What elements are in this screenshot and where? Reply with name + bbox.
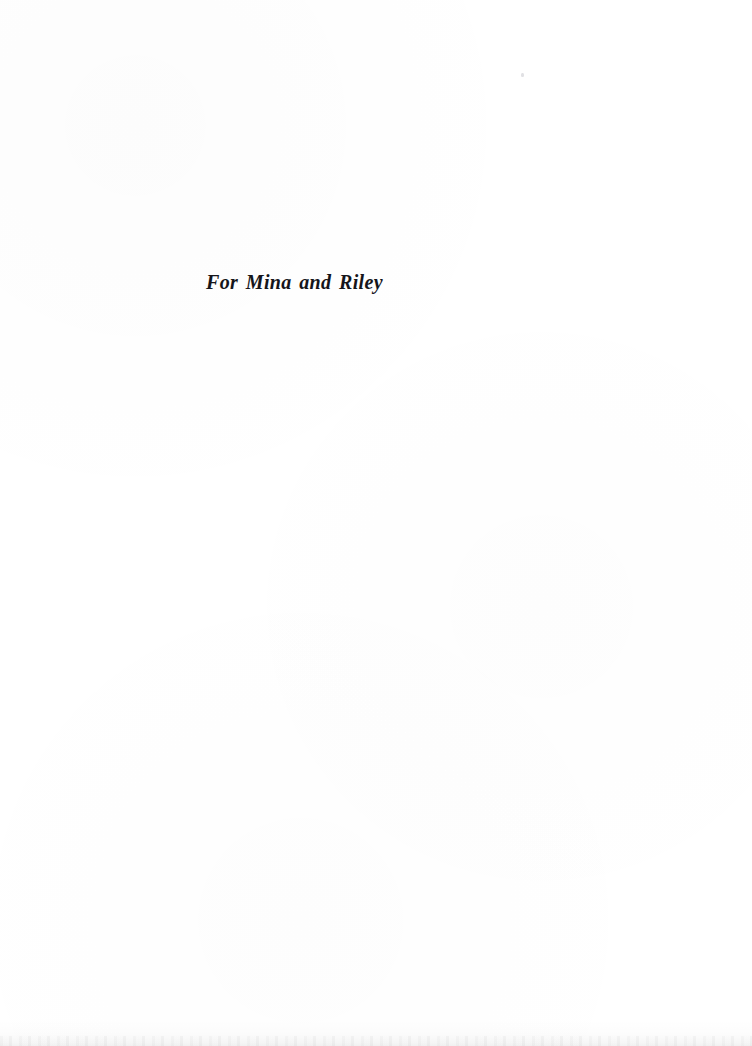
dedication-page: For Mina and Riley bbox=[0, 0, 752, 1046]
scan-edge-shadow bbox=[0, 1020, 752, 1046]
dedication-text: For Mina and Riley bbox=[206, 270, 383, 294]
scan-edge-noise bbox=[0, 1036, 752, 1046]
scan-speck-artifact bbox=[521, 73, 524, 77]
